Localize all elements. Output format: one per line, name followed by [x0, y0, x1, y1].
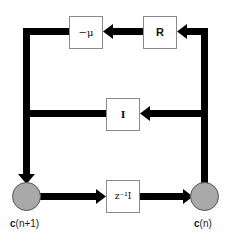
- line-I-to-left: [23, 110, 106, 117]
- block-R: R: [143, 16, 177, 49]
- node-c-next: [13, 183, 41, 211]
- block-I-label: I: [121, 110, 126, 120]
- arrowhead-into-I: [140, 106, 150, 121]
- line-to-I: [149, 110, 208, 117]
- block-neg-mu: −μ: [69, 16, 103, 49]
- arrowhead-into-mu: [103, 24, 113, 39]
- line-delay-to-cnow: [139, 193, 183, 200]
- block-I: I: [106, 98, 140, 131]
- block-delay-label: z⁻¹I: [115, 192, 132, 201]
- c-now-arg: (n): [200, 218, 212, 229]
- node-c-now-label: c(n): [194, 218, 212, 229]
- c-next-arg: (n+1): [16, 218, 40, 229]
- node-c-now: [191, 183, 219, 211]
- arrowhead-into-R: [177, 24, 187, 39]
- left-vertical-line: [23, 28, 30, 175]
- line-cnext-to-delay: [40, 193, 96, 200]
- arrowhead-into-delay: [96, 189, 106, 204]
- block-delay: z⁻¹I: [106, 180, 140, 213]
- node-c-next-label: c(n+1): [10, 218, 39, 229]
- block-R-label: R: [156, 27, 164, 38]
- line-to-R: [186, 28, 208, 35]
- right-vertical-line: [201, 28, 208, 184]
- line-R-to-mu: [112, 28, 143, 35]
- block-neg-mu-label: −μ: [79, 28, 94, 38]
